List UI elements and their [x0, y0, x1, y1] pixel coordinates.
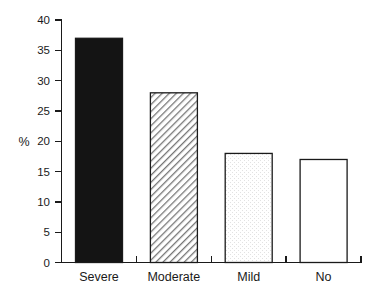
x-category-label-severe: Severe: [79, 270, 119, 284]
chart-canvas: 0 5 10 15 20 25 30 35 40 %: [0, 0, 368, 293]
y-tick-label-40: 40: [37, 14, 50, 26]
y-axis-title: %: [18, 135, 29, 149]
bar-mild: [225, 153, 272, 262]
bar-no: [300, 159, 347, 262]
y-tick-label-35: 35: [37, 44, 50, 56]
x-category-label-moderate: Moderate: [147, 270, 200, 284]
bar-chart-figure: 0 5 10 15 20 25 30 35 40 %: [0, 0, 368, 293]
y-tick-label-0: 0: [44, 257, 50, 269]
y-tick-label-5: 5: [44, 226, 50, 238]
x-category-label-no: No: [316, 270, 332, 284]
y-tick-label-20: 20: [37, 135, 50, 147]
bar-severe: [76, 38, 123, 262]
bar-moderate: [150, 93, 197, 263]
y-tick-label-25: 25: [37, 105, 50, 117]
y-tick-label-30: 30: [37, 75, 50, 87]
y-tick-label-10: 10: [37, 196, 50, 208]
x-category-label-mild: Mild: [237, 270, 260, 284]
y-tick-label-15: 15: [37, 166, 50, 178]
